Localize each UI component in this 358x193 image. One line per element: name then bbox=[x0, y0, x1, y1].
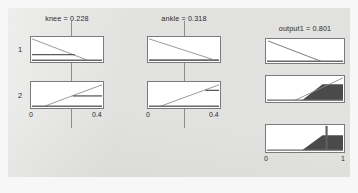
output-title: output1 = 0.801 bbox=[265, 24, 345, 33]
rule-viewer-root: knee = 0.228 0 0.4 ankle = 0.318 bbox=[0, 0, 358, 193]
plot-ankle-rule-1 bbox=[147, 36, 221, 63]
axis-max-ankle: 0.4 bbox=[209, 111, 219, 118]
plot-knee-rule-2 bbox=[30, 81, 104, 109]
axis-min-output: 0 bbox=[264, 155, 268, 162]
axis-max-output: 1 bbox=[341, 155, 345, 162]
input-title-knee: knee = 0.228 bbox=[30, 14, 104, 23]
plot-output-rule-2 bbox=[265, 75, 345, 103]
plot-ankle-rule-2 bbox=[147, 81, 221, 109]
plot-output-rule-1 bbox=[265, 38, 345, 64]
axis-min-ankle: 0 bbox=[146, 111, 150, 118]
axis-max-knee: 0.4 bbox=[92, 111, 102, 118]
plot-output-aggregate bbox=[265, 124, 345, 153]
plot-knee-rule-1 bbox=[30, 36, 104, 63]
rule-label-1: 1 bbox=[18, 45, 22, 54]
axis-min-knee: 0 bbox=[29, 111, 33, 118]
rule-label-2: 2 bbox=[18, 91, 22, 100]
